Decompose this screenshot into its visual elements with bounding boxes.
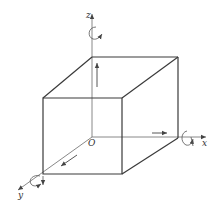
y-axis-label: y — [17, 190, 24, 200]
cube-edge-bottom-right — [122, 138, 178, 174]
z-rotation-arrow-icon — [89, 27, 102, 39]
translation-arrows — [61, 63, 167, 166]
cube-front-face — [43, 98, 122, 174]
cube-edge-top-right — [122, 57, 178, 98]
y-axis — [18, 137, 92, 190]
cube-axes-diagram: z x y O — [0, 0, 217, 207]
cube — [43, 57, 178, 174]
cube-edge-top-left — [43, 57, 92, 98]
x-rotation-tick — [191, 137, 193, 146]
y-translation-arrow-icon — [61, 155, 77, 166]
x-axis-label: x — [202, 138, 207, 148]
rotation-arrows — [30, 27, 193, 186]
z-axis-label: z — [85, 10, 91, 20]
origin-label: O — [88, 138, 96, 148]
